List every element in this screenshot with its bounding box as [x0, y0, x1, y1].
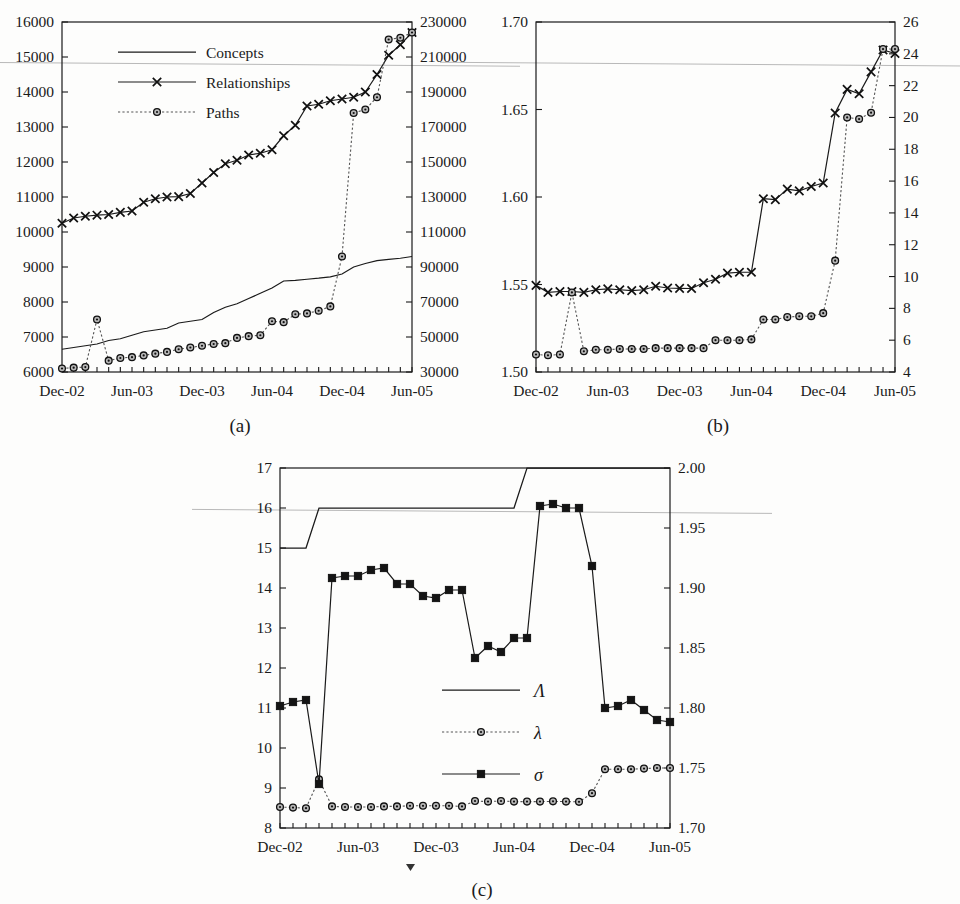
left-axis-tick-label: 16 [257, 499, 273, 516]
series-markers-sigma [276, 500, 673, 787]
panel-caption-b: (b) [707, 415, 729, 437]
x-axis-tick-label: Jun-05 [649, 838, 691, 855]
left-axis-tick-label: 1.55 [501, 276, 528, 293]
right-axis-tick-label: 20 [903, 108, 919, 125]
left-axis-tick-label: 12 [257, 659, 273, 676]
legend-label-Relationships: Relationships [206, 74, 290, 91]
left-axis-tick-label: 1.60 [501, 188, 528, 205]
right-axis-tick-label: 1.85 [678, 639, 705, 656]
right-axis-tick-label: 1.90 [678, 579, 705, 596]
chart-panel-a: 6000700080009000100001100012000130001400… [0, 0, 480, 440]
legend-label-sigma: σ [534, 765, 544, 785]
right-axis-tick-label: 1.70 [678, 819, 705, 836]
left-axis-tick-label: 7000 [23, 328, 54, 345]
right-axis-tick-label: 230000 [420, 13, 467, 30]
plot-frame [536, 22, 895, 372]
chart-panel-c: 8910111213141516171.701.751.801.851.901.… [232, 446, 732, 904]
right-axis-tick-label: 12 [903, 236, 919, 253]
x-axis-tick-label: Jun-03 [337, 838, 379, 855]
x-axis-tick-label: Jun-04 [493, 838, 535, 855]
left-axis-tick-label: 1.70 [501, 13, 528, 30]
panel-caption-a: (a) [229, 415, 250, 437]
right-axis-tick-label: 50000 [420, 328, 459, 345]
x-axis-tick-label: Dec-03 [657, 382, 703, 399]
x-axis-tick-label: Dec-03 [413, 838, 459, 855]
chart-svg-b: 1.501.551.601.651.7046810121416182022242… [480, 0, 960, 440]
right-axis-tick-label: 6 [903, 331, 911, 348]
right-axis-tick-label: 130000 [420, 188, 467, 205]
legend-label-Paths: Paths [206, 104, 240, 121]
left-axis-tick-label: 8 [264, 819, 272, 836]
right-axis-tick-label: 1.95 [678, 519, 705, 536]
series-markers-mu [532, 46, 899, 297]
right-axis-tick-label: 10 [903, 268, 919, 285]
x-axis-tick-label: Dec-04 [319, 382, 365, 399]
left-axis-tick-label: 9 [264, 779, 272, 796]
x-axis-tick-label: Jun-04 [251, 382, 293, 399]
right-axis-tick-label: 1.80 [678, 699, 705, 716]
series-line-Relationships [62, 33, 412, 224]
x-axis-tick-label: Dec-04 [569, 838, 615, 855]
x-axis-tick-label: Jun-03 [111, 382, 153, 399]
left-axis-tick-label: 11000 [16, 188, 54, 205]
left-axis-tick-label: 14000 [15, 83, 54, 100]
right-axis-tick-label: 24 [903, 45, 919, 62]
x-axis-tick-label: Jun-05 [391, 382, 433, 399]
scan-artifact-line [440, 62, 960, 66]
right-axis-tick-label: 170000 [420, 118, 467, 135]
x-axis-tick-label: Dec-02 [39, 382, 85, 399]
right-axis-tick-label: 14 [903, 204, 919, 221]
panel-caption-c: (c) [471, 879, 492, 901]
right-axis-tick-label: 8 [903, 299, 911, 316]
stray-arrow-mark [406, 864, 415, 871]
legend-label-lambda: λ [533, 723, 542, 743]
x-axis-tick-label: Jun-04 [730, 382, 772, 399]
right-axis-tick-label: 22 [903, 77, 919, 94]
series-markers-lambda [277, 765, 674, 812]
series-line-sigma [280, 504, 670, 784]
right-axis-tick-label: 18 [903, 140, 919, 157]
series-line-Lambda [280, 468, 670, 548]
x-axis-tick-label: Dec-02 [257, 838, 303, 855]
left-axis-tick-label: 17 [257, 459, 273, 476]
x-axis-tick-label: Jun-03 [587, 382, 629, 399]
left-axis-tick-label: 10 [257, 739, 273, 756]
chart-svg-a: 6000700080009000100001100012000130001400… [0, 0, 480, 440]
right-axis-tick-label: 90000 [420, 258, 459, 275]
x-axis-tick-label: Dec-03 [179, 382, 225, 399]
legend-c: Λλσ [442, 681, 545, 785]
right-axis-tick-label: 4 [903, 363, 911, 380]
left-axis-tick-label: 13 [257, 619, 273, 636]
legend-label-Concepts: Concepts [206, 44, 264, 61]
figure-container: 6000700080009000100001100012000130001400… [0, 0, 960, 904]
legend-label-Lambda: Λ [532, 681, 545, 701]
x-axis-tick-label: Jun-05 [874, 382, 916, 399]
series-line-rho [536, 49, 895, 355]
left-axis-tick-label: 10000 [15, 223, 54, 240]
right-axis-tick-label: 30000 [420, 363, 459, 380]
left-axis-tick-label: 1.50 [501, 363, 528, 380]
x-axis-tick-label: Dec-04 [800, 382, 846, 399]
x-axis-tick-label: Dec-02 [513, 382, 559, 399]
left-axis-tick-label: 15000 [15, 48, 54, 65]
left-axis-tick-label: 6000 [23, 363, 54, 380]
left-axis-tick-label: 1.65 [501, 101, 528, 118]
chart-svg-c: 8910111213141516171.701.751.801.851.901.… [232, 446, 732, 904]
left-axis-tick-label: 16000 [15, 13, 54, 30]
right-axis-tick-label: 26 [903, 13, 919, 30]
right-axis-tick-label: 150000 [420, 153, 467, 170]
right-axis-tick-label: 1.75 [678, 759, 705, 776]
left-axis-tick-label: 11 [257, 699, 272, 716]
right-axis-tick-label: 16 [903, 172, 919, 189]
right-axis-tick-label: 110000 [420, 223, 466, 240]
right-axis-tick-label: 2.00 [678, 459, 705, 476]
left-axis-tick-label: 14 [257, 579, 273, 596]
right-axis-tick-label: 190000 [420, 83, 467, 100]
right-axis-tick-label: 70000 [420, 293, 459, 310]
left-axis-tick-label: 13000 [15, 118, 54, 135]
chart-panel-b: 1.501.551.601.651.7046810121416182022242… [480, 0, 960, 440]
left-axis-tick-label: 15 [257, 539, 273, 556]
legend-a: ConceptsRelationshipsPaths [118, 44, 290, 121]
scan-artifact-line [192, 509, 772, 513]
series-line-mu [536, 50, 895, 292]
